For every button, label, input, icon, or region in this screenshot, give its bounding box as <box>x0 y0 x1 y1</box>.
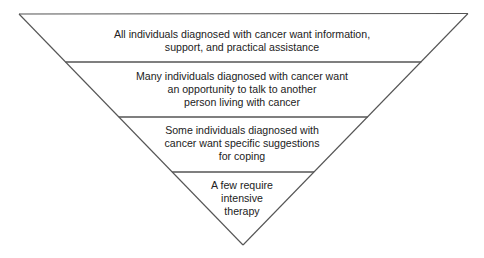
tier-1-line-2: support, and practical assistance <box>0 41 484 54</box>
tier-2-text: Many individuals diagnosed with cancer w… <box>0 70 484 109</box>
tier-3-line-3: for coping <box>0 150 484 163</box>
tier-3-line-2: cancer want specific suggestions <box>0 137 484 150</box>
tier-4-line-2: intensive <box>0 192 484 205</box>
tier-2-line-2: an opportunity to talk to another <box>0 83 484 96</box>
tier-4-text: A few require intensive therapy <box>0 179 484 218</box>
pyramid-top-edge <box>19 14 468 15</box>
tier-2-line-3: person living with cancer <box>0 96 484 109</box>
tier-3-line-1: Some individuals diagnosed with <box>0 124 484 137</box>
tier-4-line-3: therapy <box>0 205 484 218</box>
tier-2-line-1: Many individuals diagnosed with cancer w… <box>0 70 484 83</box>
tier-1-text: All individuals diagnosed with cancer wa… <box>0 28 484 54</box>
tier-1-line-1: All individuals diagnosed with cancer wa… <box>0 28 484 41</box>
tier-3-text: Some individuals diagnosed with cancer w… <box>0 124 484 163</box>
tier-4-line-1: A few require <box>0 179 484 192</box>
